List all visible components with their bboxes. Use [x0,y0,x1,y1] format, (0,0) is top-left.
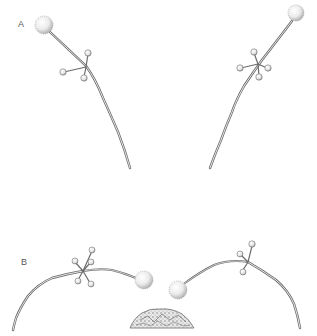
substrate-mound [130,309,194,328]
panel-a-right-sporangiophore [210,5,304,168]
panel-b-left-sporangiophore [13,247,153,330]
panel-a-left-sporangiophore [35,16,130,168]
illustration-figure: A B [0,0,317,336]
illustration-drawing [0,0,317,336]
panel-b-right-sporangiophore [169,241,300,328]
